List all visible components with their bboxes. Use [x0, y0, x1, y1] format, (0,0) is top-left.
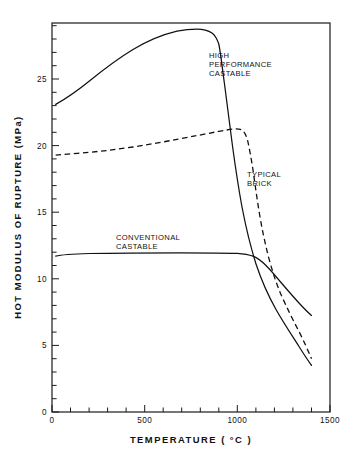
annotation-high-performance-castable: HIGH PERFORMANCE CASTABLE	[209, 51, 272, 78]
typical-brick-label-line2: BRICK	[247, 179, 272, 188]
hp-castable-label-line1: HIGH	[209, 51, 229, 60]
y-tick-label-0: 0	[42, 408, 47, 417]
x-tick-label-1500: 1500	[320, 416, 340, 425]
y-axis-title: HOT MODULUS OF RUPTURE (MPa)	[12, 115, 23, 318]
conventional-castable-label-line1: CONVENTIONAL	[116, 233, 180, 242]
y-tick-label-15: 15	[37, 208, 47, 217]
y-axis-tick-labels: 0 5 10 15 20 25	[37, 75, 47, 417]
x-tick-label-0: 0	[50, 416, 55, 425]
plot-frame	[52, 23, 330, 412]
annotation-conventional-castable: CONVENTIONAL CASTABLE	[116, 233, 180, 251]
x-axis-title: TEMPERATURE ( °C )	[130, 434, 252, 445]
x-tick-label-500: 500	[137, 416, 152, 425]
y-tick-label-10: 10	[37, 275, 47, 284]
x-tick-label-1000: 1000	[227, 416, 247, 425]
x-axis-tick-labels: 0 500 1000 1500	[50, 416, 340, 425]
hp-castable-label-line3: CASTABLE	[209, 69, 251, 78]
x-axis-minor-ticks	[71, 408, 312, 413]
hot-mor-chart: 0 5 10 15 20 25 0 500 1000 1500 TEMPERAT…	[0, 0, 353, 457]
hp-castable-label-line2: PERFORMANCE	[209, 60, 272, 69]
x-axis-major-ticks	[52, 405, 330, 412]
series-typical-brick	[56, 129, 312, 359]
y-axis-major-ticks	[52, 79, 59, 412]
y-tick-label-25: 25	[37, 75, 47, 84]
y-tick-label-20: 20	[37, 142, 47, 151]
series-conventional-castable	[56, 253, 312, 316]
annotation-typical-brick: TYPICAL BRICK	[247, 170, 281, 188]
typical-brick-label-line1: TYPICAL	[247, 170, 281, 179]
y-tick-label-5: 5	[42, 341, 47, 350]
chart-figure: 0 5 10 15 20 25 0 500 1000 1500 TEMPERAT…	[0, 0, 353, 457]
series-high-performance-castable	[56, 29, 312, 365]
conventional-castable-label-line2: CASTABLE	[116, 242, 158, 251]
